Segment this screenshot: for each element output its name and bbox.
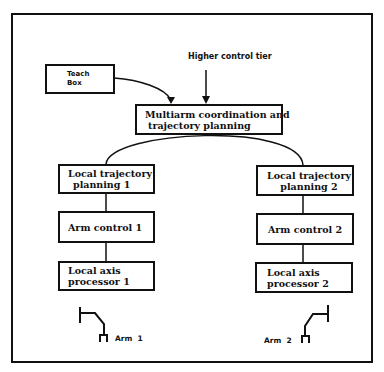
local-trajectory-planning-1-box: Local trajectory planning 1: [58, 164, 155, 194]
coordinator-line1: Multiarm coordination and: [145, 109, 281, 120]
ltp2-line1: Local trajectory: [267, 170, 351, 181]
lap2-line2: processor 2: [267, 278, 351, 289]
lap1-line2: processor 1: [68, 276, 153, 287]
ltp1-line1: Local trajectory: [68, 168, 153, 179]
robot-arm-1-icon: [80, 307, 107, 342]
ltp1-line2: planning 1: [68, 179, 153, 190]
local-axis-processor-2-box: Local axis processor 2: [255, 262, 353, 293]
robot-arm-2-icon: [302, 305, 328, 343]
branch-arc: [106, 136, 303, 165]
teach-box-arrow: [114, 78, 171, 100]
local-trajectory-planning-2-box: Local trajectory planning 2: [256, 165, 354, 196]
control-hierarchy-diagram: Higher control tier Teach Box Multiarm c…: [0, 0, 384, 372]
teach-box: Teach Box: [45, 64, 115, 94]
coordinator-line2: trajectory planning: [145, 120, 281, 131]
higher-control-tier-label: Higher control tier: [188, 52, 272, 61]
arm-2-label: Arm 2: [264, 336, 292, 345]
arm-control-1-label: Arm control 1: [68, 222, 153, 233]
lap1-line1: Local axis: [68, 265, 153, 276]
arm-control-1-box: Arm control 1: [58, 211, 155, 243]
arm-1-label: Arm 1: [115, 334, 143, 343]
lap2-line1: Local axis: [267, 267, 351, 278]
arm-control-2-label: Arm control 2: [268, 224, 342, 235]
multiarm-coordination-box: Multiarm coordination and trajectory pla…: [135, 104, 283, 135]
arm-control-2-box: Arm control 2: [256, 213, 354, 245]
teach-box-line1: Teach: [67, 70, 113, 79]
ltp2-line2: planning 2: [280, 181, 337, 192]
teach-box-line2: Box: [67, 79, 113, 88]
arrowhead-icon: [202, 96, 210, 104]
local-axis-processor-1-box: Local axis processor 1: [58, 261, 155, 291]
arrowhead-icon: [167, 97, 175, 104]
